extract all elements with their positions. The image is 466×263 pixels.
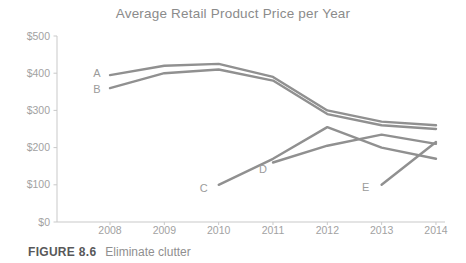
series-label-B: B — [93, 83, 100, 95]
figure-caption-text: Eliminate clutter — [105, 245, 190, 259]
figure-caption: FIGURE 8.6Eliminate clutter — [28, 245, 191, 259]
x-tick-label: 2013 — [370, 224, 394, 236]
y-tick-label: $0 — [38, 216, 50, 228]
series-label-D: D — [259, 163, 267, 175]
y-tick-label: $400 — [27, 67, 51, 79]
series-line-B — [110, 70, 436, 130]
series-label-A: A — [93, 67, 101, 79]
y-tick-label: $300 — [27, 104, 51, 116]
y-tick-label: $200 — [27, 141, 51, 153]
x-tick-label: 2011 — [262, 224, 285, 236]
figure-number: FIGURE 8.6 — [28, 245, 96, 259]
x-tick-label: 2008 — [98, 224, 122, 236]
series-line-C — [219, 127, 436, 185]
x-tick-label: 2014 — [424, 224, 448, 236]
line-chart: $0$100$200$300$400$500200820092010201120… — [0, 0, 466, 242]
x-tick-label: 2012 — [316, 224, 340, 236]
x-tick-label: 2009 — [153, 224, 177, 236]
axes — [57, 36, 445, 222]
series-label-C: C — [200, 182, 208, 194]
y-tick-label: $100 — [27, 178, 51, 190]
x-tick-label: 2010 — [207, 224, 231, 236]
series-line-A — [110, 64, 436, 125]
series-line-D — [273, 135, 436, 163]
figure-8-6: Average Retail Product Price per Year $0… — [0, 0, 466, 263]
y-tick-label: $500 — [27, 30, 51, 42]
series-label-E: E — [362, 181, 369, 193]
